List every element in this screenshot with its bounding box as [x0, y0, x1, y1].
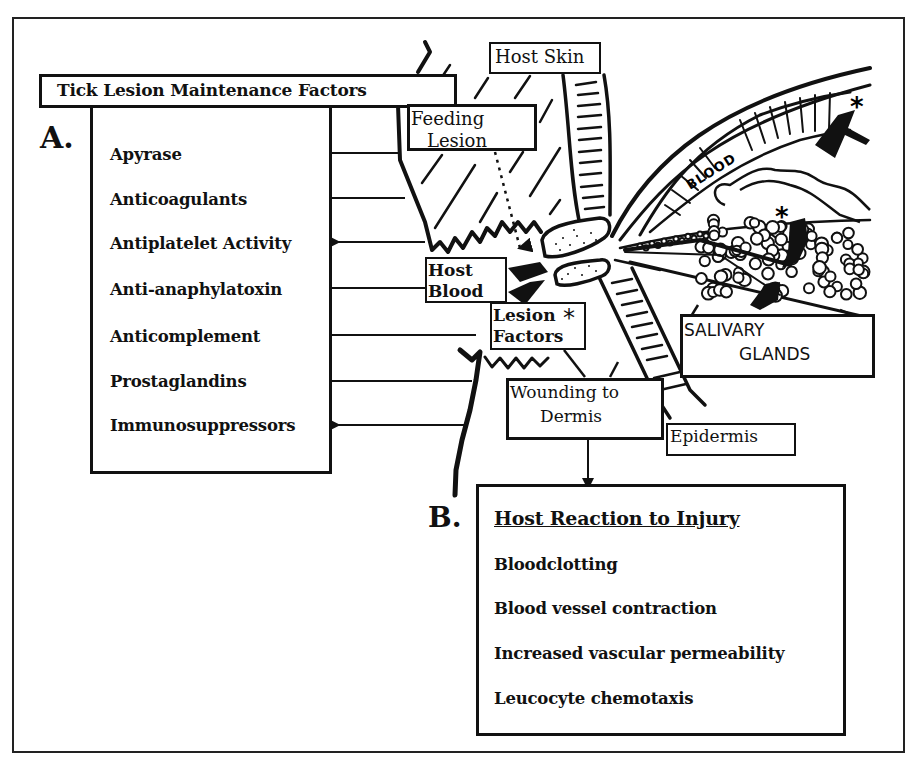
gland-acinus	[750, 218, 759, 227]
internal-tubule	[715, 169, 870, 222]
factor-apyrase: Apyrase	[110, 145, 182, 164]
gland-marker-upper: *	[850, 92, 864, 122]
gland-acinus	[700, 256, 710, 266]
mouthparts	[542, 218, 610, 285]
wounding-label-line2: Dermis	[540, 408, 602, 425]
gland-acinus	[733, 273, 743, 283]
gland-acinus	[804, 283, 814, 293]
gland-acinus	[843, 228, 854, 239]
factor-anti-anaphylatoxin: Anti-anaphylatoxin	[110, 280, 282, 299]
salivary-gland-cluster	[637, 215, 869, 302]
gland-acinus	[851, 279, 862, 290]
gland-acinus	[854, 265, 864, 275]
gland-acinus	[852, 244, 863, 255]
salivary-glands-label-line1: SALIVARY	[684, 322, 765, 339]
host-blood-label-line1: Host	[428, 262, 473, 279]
reaction-vessel-contraction: Blood vessel contraction	[494, 599, 717, 618]
host-blood-label-line2: Blood	[428, 283, 483, 300]
gland-acinus	[807, 231, 817, 241]
lesion-factors-label-line2: Factors	[493, 328, 563, 345]
lesion-factors-marker: *	[563, 306, 575, 330]
host-reaction-title: Host Reaction to Injury	[494, 509, 739, 528]
epidermis-band-upper	[563, 75, 610, 225]
panel-b-letter: B.	[428, 501, 461, 534]
gland-bead	[703, 233, 708, 238]
factor-immunosuppressors: Immunosuppressors	[110, 416, 295, 435]
gland-acinus	[786, 267, 797, 278]
gland-acinus	[696, 273, 707, 284]
gland-bead	[673, 236, 678, 241]
maintenance-title: Tick Lesion Maintenance Factors	[57, 82, 367, 99]
gland-acinus	[715, 270, 727, 282]
gland-acinus	[750, 258, 761, 269]
gland-acinus	[762, 268, 774, 280]
gland-acinus	[843, 240, 852, 249]
factor-prostaglandins: Prostaglandins	[110, 372, 247, 391]
feeding-lesion-label-line2: Lesion	[427, 132, 487, 150]
gland-acinus	[721, 286, 732, 297]
factor-anticoagulants: Anticoagulants	[110, 190, 247, 209]
gland-acinus	[709, 231, 719, 241]
blood-gut	[640, 92, 850, 235]
panel-a-letter: A.	[40, 120, 74, 155]
factor-antiplatelet-activity: Antiplatelet Activity	[110, 234, 291, 253]
reaction-bloodclotting: Bloodclotting	[494, 555, 618, 574]
gland-bead	[697, 231, 702, 236]
wounding-label-line1: Wounding to	[510, 384, 619, 401]
gland-acinus	[841, 289, 852, 300]
gland-acinus	[775, 234, 787, 246]
reaction-vascular-permeability: Increased vascular permeability	[494, 644, 784, 663]
reaction-leucocyte-chemotaxis: Leucocyte chemotaxis	[494, 689, 693, 708]
epidermis-label: Epidermis	[670, 428, 758, 445]
feeding-lesion-label-line1: Feeding	[411, 110, 484, 128]
host-skin-label: Host Skin	[495, 48, 584, 66]
factor-anticomplement: Anticomplement	[110, 327, 260, 346]
lesion-factors-label-line1: Lesion	[493, 307, 556, 324]
gland-acinus	[813, 261, 826, 274]
gland-marker-lower: *	[775, 202, 789, 232]
gland-acinus	[832, 233, 842, 243]
gland-acinus	[751, 233, 763, 245]
salivary-glands-label-line2: GLANDS	[739, 346, 810, 363]
gland-acinus	[825, 271, 835, 281]
feeding-lesion-dotted-arrow	[495, 152, 520, 248]
gland-bead	[685, 234, 690, 239]
